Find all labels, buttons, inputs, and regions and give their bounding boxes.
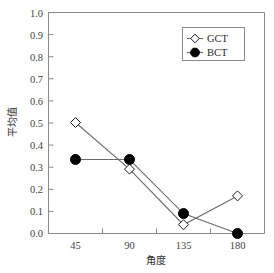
y-tick-label-2: 0.2 bbox=[30, 184, 43, 195]
y-tick-label-4: 0.4 bbox=[30, 140, 44, 151]
y-tick-label-7: 0.7 bbox=[30, 74, 43, 85]
filled-circle-icon bbox=[191, 48, 200, 57]
y-tick-label-5: 0.5 bbox=[30, 118, 43, 129]
y-tick-labels: 0.0 0.1 0.2 0.3 0.4 0.5 0.6 0.7 0.8 0.9 … bbox=[30, 8, 44, 240]
y-tick-label-8: 0.8 bbox=[30, 52, 43, 63]
y-tick-label-3: 0.3 bbox=[30, 162, 43, 173]
x-tick-label-3: 180 bbox=[230, 240, 246, 251]
data-point-bct-45 bbox=[71, 155, 81, 165]
y-tick-label-6: 0.6 bbox=[30, 96, 43, 107]
y-axis-title: 平均值 bbox=[6, 107, 18, 137]
y-tick-label-1: 0.1 bbox=[30, 206, 43, 217]
legend-label-gct: GCT bbox=[207, 33, 229, 44]
chart-legend: GCT BCT bbox=[183, 28, 245, 61]
x-tick-labels: 45 90 135 180 bbox=[70, 240, 245, 251]
x-tick-label-1: 90 bbox=[124, 240, 135, 251]
data-point-bct-135 bbox=[179, 209, 189, 219]
x-tick-label-0: 45 bbox=[70, 240, 81, 251]
legend-label-bct: BCT bbox=[207, 47, 228, 58]
x-axis-title: 角度 bbox=[146, 254, 166, 266]
x-tick-label-2: 135 bbox=[176, 240, 192, 251]
data-point-bct-90 bbox=[125, 155, 135, 165]
chart-figure: 0.0 0.1 0.2 0.3 0.4 0.5 0.6 0.7 0.8 0.9 … bbox=[0, 0, 274, 273]
data-point-bct-180 bbox=[233, 229, 243, 239]
y-tick-label-0: 0.0 bbox=[30, 228, 43, 239]
y-tick-label-9: 0.9 bbox=[30, 30, 43, 41]
line-chart: 0.0 0.1 0.2 0.3 0.4 0.5 0.6 0.7 0.8 0.9 … bbox=[0, 0, 274, 273]
y-tick-label-10: 1.0 bbox=[30, 8, 43, 19]
